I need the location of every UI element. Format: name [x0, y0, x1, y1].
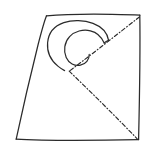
sketch-canvas: Sketch of a quadrilateral sheet of paper… — [0, 0, 149, 150]
sketch-svg — [0, 0, 149, 150]
